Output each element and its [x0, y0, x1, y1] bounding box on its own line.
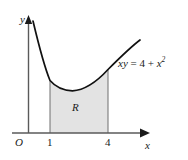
x-tick-label-4: 4 — [105, 137, 111, 148]
y-axis-label: y — [20, 14, 25, 25]
figure-canvas — [0, 0, 188, 160]
x-axis-arrowhead — [140, 129, 150, 138]
equation-exponent: 2 — [162, 55, 166, 64]
figure-container: y x O 1 4 R xy = 4 + x2 — [0, 0, 188, 160]
x-tick-label-1: 1 — [47, 137, 53, 148]
x-axis-label: x — [145, 140, 150, 151]
equation-lhs: xy — [118, 57, 128, 69]
origin-label: O — [15, 137, 23, 148]
curve-equation-label: xy = 4 + x2 — [118, 58, 165, 69]
y-axis-arrowhead — [25, 15, 32, 24]
curve-xy-equals-4-plus-x-squared — [33, 21, 140, 91]
region-label-R: R — [72, 102, 79, 113]
